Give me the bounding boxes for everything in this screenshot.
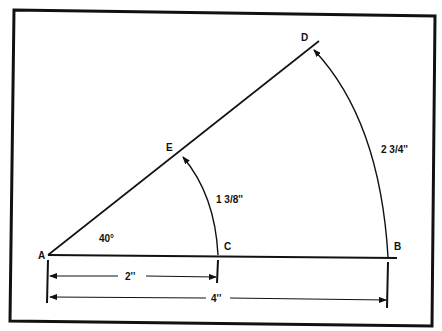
tick-C (217, 260, 218, 283)
arc-CE (183, 157, 218, 255)
dim-line-4in-left (50, 297, 206, 298)
arc-small-label: 1 3/8'' (216, 194, 243, 205)
tick-A (47, 260, 48, 303)
arc-large-label: 2 3/4'' (381, 144, 408, 155)
point-label-B: B (394, 241, 401, 252)
point-label-E: E (166, 142, 173, 153)
tick-B (387, 262, 388, 308)
point-label-C: C (224, 241, 231, 252)
dim-line-2in-right (146, 276, 216, 277)
frame-border (10, 10, 435, 326)
baseline-AB (48, 255, 397, 258)
point-label-D: D (301, 32, 308, 43)
arc-BD (314, 50, 388, 257)
point-label-A: A (38, 250, 45, 261)
geometry-diagram: A B C D E 40° 1 3/8'' 2 3/4'' 2'' 4'' (0, 0, 442, 331)
dim-long-label: 4'' (211, 293, 221, 304)
line-AD (48, 41, 319, 255)
dim-short-label: 2'' (125, 271, 135, 282)
angle-label: 40° (99, 233, 114, 244)
dim-line-4in-right (230, 298, 386, 300)
